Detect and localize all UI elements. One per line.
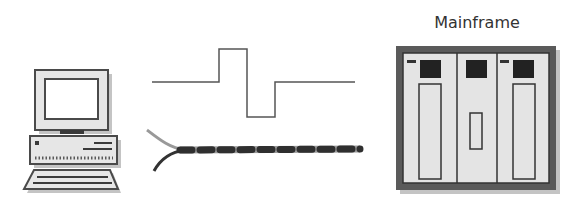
twisted-pair-cable-icon: [147, 130, 360, 171]
digital-signal-waveform: [152, 49, 355, 117]
mainframe-label: Mainframe: [398, 13, 556, 32]
mainframe-icon: [396, 46, 560, 194]
personal-computer-icon: [24, 70, 121, 193]
